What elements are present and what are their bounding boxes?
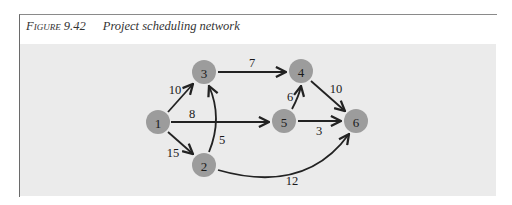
node-4: 4 — [289, 59, 313, 83]
edge-label-4-6: 10 — [330, 82, 343, 96]
node-1: 1 — [146, 110, 170, 134]
edge-label-2-3: 5 — [219, 133, 225, 147]
network-diagram: 10 8 15 5 7 6 10 3 12 1 2 3 4 5 6 — [0, 0, 512, 205]
edge-label-2-6: 12 — [286, 174, 299, 188]
edge-label-5-4: 6 — [287, 90, 293, 104]
edge-label-1-3: 10 — [169, 83, 182, 97]
edge-label-3-4: 7 — [249, 56, 255, 70]
svg-text:4: 4 — [298, 65, 305, 80]
svg-text:2: 2 — [201, 159, 208, 174]
node-2: 2 — [192, 153, 216, 177]
node-5: 5 — [272, 109, 296, 133]
svg-text:3: 3 — [201, 66, 208, 81]
edge-5-4 — [292, 86, 301, 109]
edge-2-6 — [218, 134, 349, 177]
node-3: 3 — [192, 60, 216, 84]
svg-text:6: 6 — [353, 115, 360, 130]
svg-text:5: 5 — [281, 115, 288, 130]
edge-label-1-5: 8 — [189, 107, 195, 121]
svg-text:1: 1 — [155, 116, 162, 131]
edge-label-1-2: 15 — [167, 146, 180, 160]
node-6: 6 — [344, 109, 368, 133]
edge-2-3 — [209, 86, 216, 152]
edge-label-5-6: 3 — [316, 124, 322, 138]
